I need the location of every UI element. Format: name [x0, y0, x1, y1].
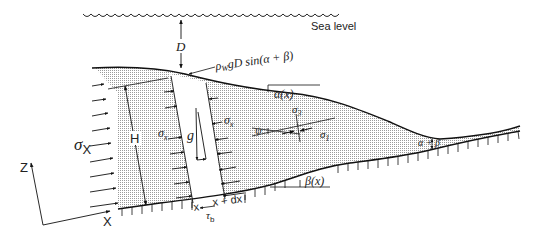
- gravity-label: g: [187, 128, 194, 143]
- thickness-label: H: [130, 131, 139, 146]
- slice-left-x-label: x: [193, 200, 200, 213]
- slice-right-x-label: x + dx: [212, 192, 243, 208]
- base-slope-label: β(x): [304, 174, 324, 188]
- z-axis-label: Z: [20, 160, 28, 175]
- z-axis: [31, 163, 43, 225]
- left-boundary-stress-arrows: [90, 84, 118, 207]
- sigma-x-left-label: σX: [74, 135, 91, 157]
- surface-slope-label: α(x): [274, 87, 294, 101]
- x-axis-label: X: [103, 214, 112, 229]
- wedge-diagram: Sea level D: [0, 0, 544, 236]
- taper-angle-label: α + β: [418, 137, 440, 148]
- basal-shear-label: τb: [206, 209, 215, 224]
- x-axis: [43, 211, 110, 225]
- water-pressure-leader: [189, 67, 215, 74]
- water-pressure-label: ρWgD sin(α + β): [213, 48, 294, 74]
- water-depth-label: D: [175, 39, 186, 54]
- psi-label: ψ: [255, 124, 262, 136]
- sea-level-label: Sea level: [311, 20, 356, 32]
- sea-level-line: [83, 14, 339, 17]
